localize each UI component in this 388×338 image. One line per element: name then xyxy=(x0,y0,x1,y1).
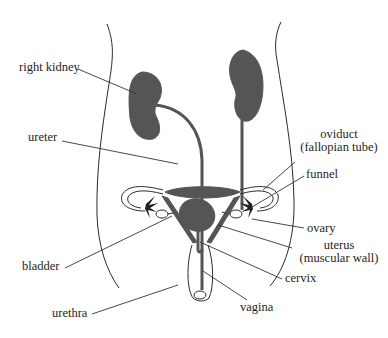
leader-uterus xyxy=(218,225,292,248)
body-outline-left xyxy=(97,24,119,288)
label-funnel: funnel xyxy=(306,168,338,181)
label-bladder: bladder xyxy=(22,260,59,273)
label-urethra: urethra xyxy=(52,307,87,320)
label-cervix: cervix xyxy=(285,272,316,285)
left-ovary xyxy=(230,210,242,218)
label-uterus: uterus (muscular wall) xyxy=(291,239,387,265)
label-ureter: ureter xyxy=(28,131,57,144)
anatomy-diagram: right kidney ureter oviduct (fallopian t… xyxy=(0,0,388,338)
label-uterus-line2: (muscular wall) xyxy=(291,252,387,265)
leader-funnel xyxy=(252,176,304,207)
leader-urethra xyxy=(92,285,178,314)
leader-oviduct xyxy=(263,162,295,190)
leader-ovary xyxy=(252,219,304,228)
leader-bladder xyxy=(65,216,172,268)
leader-ureter xyxy=(62,141,178,164)
right-oviduct-inner xyxy=(128,191,163,208)
right-ovary xyxy=(156,210,168,218)
label-ovary: ovary xyxy=(307,222,335,235)
left-kidney xyxy=(230,50,263,121)
label-oviduct: oviduct (fallopian tube) xyxy=(294,128,384,154)
label-oviduct-line2: (fallopian tube) xyxy=(294,141,384,154)
label-vagina: vagina xyxy=(240,301,273,314)
right-kidney xyxy=(129,72,161,139)
vaginal-opening xyxy=(194,291,206,299)
label-right-kidney: right kidney xyxy=(19,61,80,74)
uterus-top xyxy=(165,187,240,198)
